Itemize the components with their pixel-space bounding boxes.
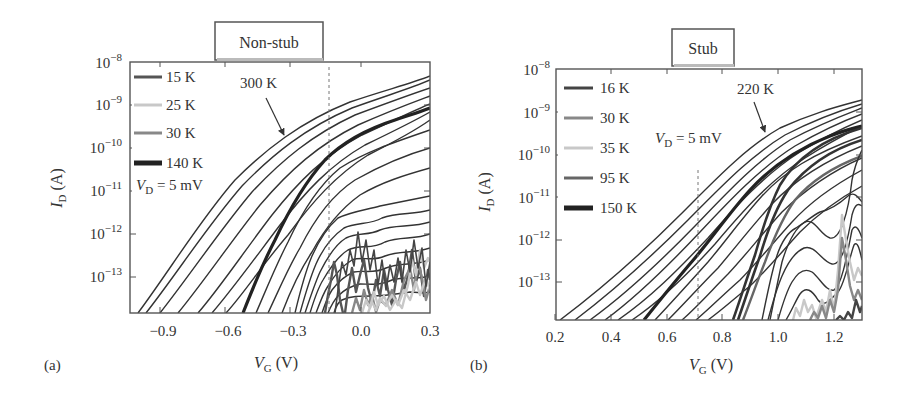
legend-item-b-2: 35 K	[600, 140, 630, 156]
arrow-a	[266, 98, 284, 135]
legend-item-a-0: 15 K	[166, 69, 196, 85]
legend-item-b-0: 16 K	[600, 80, 630, 96]
legend-item-b-1: 30 K	[600, 110, 630, 126]
ytick-a-5: 10−13	[90, 265, 123, 285]
panel-label-a: (a)	[44, 357, 61, 374]
xtick-a-4: 0.3	[421, 323, 440, 339]
panel-label-b: (b)	[470, 357, 488, 374]
vd-annotation-b: VD = 5 mV	[655, 130, 722, 149]
y-axis-b: 10−8 10−9 10−10 10−11 10−12 10−13	[518, 58, 551, 290]
chart-title-b: Stub	[688, 40, 717, 57]
x-axis-title-a: VG (V)	[254, 354, 298, 374]
xtick-b-0: 0.2	[546, 329, 565, 345]
arrow-label-a: 300 K	[240, 75, 277, 91]
panel-b: Stub 10−8 10−9 10−10 10−11 10−12 10−13 I…	[470, 29, 862, 376]
ytick-b-3: 10−11	[518, 186, 550, 206]
legend-item-b-4: 150 K	[600, 200, 637, 216]
xtick-a-1: −0.6	[214, 323, 242, 339]
ytick-a-1: 10−9	[95, 93, 122, 113]
xtick-b-3: 0.8	[713, 329, 732, 345]
ytick-a-2: 10−10	[90, 136, 123, 156]
xtick-b-1: 0.4	[602, 329, 621, 345]
xtick-b-4: 1.0	[769, 329, 788, 345]
y-axis-title-a: ID (A)	[48, 168, 68, 209]
ytick-b-2: 10−10	[518, 143, 551, 163]
legend-b: 16 K 30 K 35 K 95 K 150 K	[558, 75, 637, 216]
xtick-b-5: 1.2	[825, 329, 844, 345]
ytick-b-4: 10−12	[518, 228, 550, 248]
legend-item-a-1: 25 K	[166, 97, 196, 113]
panel-a: Non-stub 10−8 10−9 10−10 10−11 10−12 10−…	[44, 22, 439, 374]
chart-title-a: Non-stub	[239, 34, 299, 51]
x-axis-a: −0.9 −0.6 −0.3 0.0 0.3	[149, 323, 439, 339]
figure: Non-stub 10−8 10−9 10−10 10−11 10−12 10−…	[0, 0, 907, 404]
xtick-a-3: 0.0	[352, 323, 371, 339]
title-box-a: Non-stub	[215, 22, 323, 61]
xtick-a-2: −0.3	[279, 323, 306, 339]
legend-item-a-3: 140 K	[166, 155, 203, 171]
xtick-a-0: −0.9	[149, 323, 176, 339]
ytick-a-4: 10−12	[90, 222, 122, 242]
ytick-b-0: 10−8	[523, 58, 550, 78]
title-box-b: Stub	[672, 29, 734, 67]
ytick-b-5: 10−13	[518, 270, 551, 290]
legend-item-b-3: 95 K	[600, 170, 630, 186]
y-axis-a: 10−8 10−9 10−10 10−11 10−12 10−13	[90, 51, 123, 285]
legend-a: 15 K 25 K 30 K 140 K VD = 5 mV	[132, 68, 208, 196]
legend-item-a-2: 30 K	[166, 125, 196, 141]
ytick-a-0: 10−8	[95, 51, 122, 71]
xtick-b-2: 0.6	[658, 329, 677, 345]
arrow-b	[754, 102, 765, 132]
x-axis-title-b: VG (V)	[689, 356, 733, 376]
arrow-label-b: 220 K	[737, 81, 774, 97]
y-axis-title-b: ID (A)	[476, 172, 496, 213]
ytick-b-1: 10−9	[523, 101, 550, 121]
x-axis-b: 0.2 0.4 0.6 0.8 1.0 1.2	[546, 329, 844, 345]
ytick-a-3: 10−11	[90, 179, 122, 199]
